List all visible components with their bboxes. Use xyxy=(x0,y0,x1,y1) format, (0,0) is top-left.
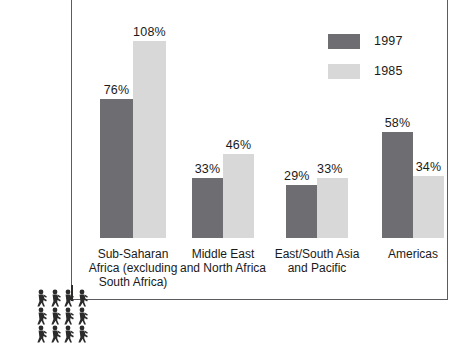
chart-legend: 1997 1985 xyxy=(328,26,403,86)
bar-1985-2[interactable]: 33% xyxy=(317,178,348,238)
category-label-0: Sub-Saharan Africa (excluding South Afri… xyxy=(89,247,178,289)
person-icon xyxy=(63,289,77,307)
bar-1985-0[interactable]: 108% xyxy=(133,41,166,238)
bar-1997-0[interactable]: 76% xyxy=(100,99,133,238)
person-icon xyxy=(63,325,77,343)
person-icon xyxy=(77,325,91,343)
person-icon xyxy=(36,325,50,343)
bar-rect-1985-1 xyxy=(223,154,254,238)
bar-1985-1[interactable]: 46% xyxy=(223,154,254,238)
people-pictogram xyxy=(36,289,90,344)
legend-item-1985[interactable]: 1985 xyxy=(328,56,403,86)
bar-value-1997-1: 33% xyxy=(195,162,221,176)
bar-rect-1997-2 xyxy=(286,185,317,238)
bar-group-1: 33% 46% Middle East and North Africa xyxy=(192,154,254,238)
bar-group-2: 29% 33% East/South Asia and Pacific xyxy=(286,178,348,238)
category-label-2: East/South Asia and Pacific xyxy=(275,247,360,275)
bar-rect-1997-1 xyxy=(192,178,223,238)
bar-rect-1997-0 xyxy=(100,99,133,238)
category-label-1: Middle East and North Africa xyxy=(180,247,266,275)
bar-rect-1997-3 xyxy=(382,132,413,238)
bar-group-0: 76% 108% Sub-Saharan Africa (excluding S… xyxy=(100,41,166,238)
bar-rect-1985-0 xyxy=(133,41,166,238)
bar-rect-1985-3 xyxy=(413,176,444,238)
bar-value-1997-0: 76% xyxy=(104,83,130,97)
bar-value-1985-1: 46% xyxy=(226,138,252,152)
legend-swatch-1997 xyxy=(328,34,360,49)
legend-label-1985: 1985 xyxy=(374,64,403,78)
person-icon xyxy=(36,307,50,325)
bar-value-1985-2: 33% xyxy=(317,162,343,176)
person-icon xyxy=(36,289,50,307)
legend-label-1997: 1997 xyxy=(374,34,403,48)
person-icon xyxy=(50,325,64,343)
bar-value-1997-3: 58% xyxy=(385,116,411,130)
chart-frame: 1997 1985 76% 108% Sub-Saharan Africa (e… xyxy=(71,0,448,300)
legend-item-1997[interactable]: 1997 xyxy=(328,26,403,56)
bar-1997-1[interactable]: 33% xyxy=(192,178,223,238)
category-label-3: Americas xyxy=(388,247,438,261)
bar-rect-1985-2 xyxy=(317,178,348,238)
person-icon xyxy=(50,289,64,307)
bar-value-1985-3: 34% xyxy=(416,160,442,174)
chart-plot-area: 1997 1985 76% 108% Sub-Saharan Africa (e… xyxy=(72,0,447,299)
bar-value-1985-0: 108% xyxy=(133,25,166,39)
person-icon xyxy=(50,307,64,325)
bar-1985-3[interactable]: 34% xyxy=(413,176,444,238)
person-icon xyxy=(77,289,91,307)
legend-swatch-1985 xyxy=(328,64,360,79)
bar-1997-3[interactable]: 58% xyxy=(382,132,413,238)
person-icon xyxy=(77,307,91,325)
bar-value-1997-2: 29% xyxy=(284,169,310,183)
pictogram-tick-vertical xyxy=(71,285,73,301)
person-icon xyxy=(63,307,77,325)
bar-group-3: 58% 34% Americas xyxy=(382,132,444,238)
bar-1997-2[interactable]: 29% xyxy=(286,185,317,238)
